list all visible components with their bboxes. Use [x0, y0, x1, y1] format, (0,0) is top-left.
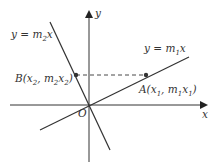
origin-label: O — [78, 107, 87, 119]
point-b — [74, 73, 78, 77]
line-m1-label: y = m1x — [143, 42, 186, 57]
point-b-label: B(x2, m2x2) — [14, 72, 73, 87]
x-axis-label: x — [202, 108, 208, 120]
line-m2 — [50, 22, 110, 150]
y-axis-label: y — [94, 7, 102, 19]
point-a-label: A(x1, m1x1) — [138, 83, 197, 98]
coordinate-diagram: y x O y = m2x y = m1x B(x2, m2x2) A(x1, … — [0, 0, 217, 167]
point-a — [144, 73, 148, 77]
line-m2-label: y = m2x — [10, 28, 53, 43]
